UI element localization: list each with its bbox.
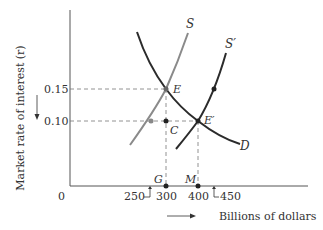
x-axis-label: Billions of dollars [219,210,317,223]
point-e-prime [196,119,201,124]
origin-label: 0 [58,190,65,203]
down-arrow-head-icon [35,114,40,120]
x-tick-250: 250 [124,190,145,203]
right-arrow-head-icon [190,214,196,219]
point-c [164,119,169,124]
label-d: D [239,139,250,153]
point-s-at-010 [149,119,154,124]
label-e-prime: E′ [203,114,215,127]
supply-demand-diagram: S S′ D E E′ C G M 0.15 0.10 Market rate … [0,0,323,230]
x-tick-300: 300 [156,190,177,203]
label-s: S [186,17,194,31]
label-g: G [154,173,163,186]
x-tick-400: 400 [188,190,209,203]
point-g [164,184,169,189]
x-tick-450: 450 [220,190,241,203]
label-c: C [170,124,179,137]
tick-bracket-450 [214,188,219,197]
point-e [164,87,169,92]
label-m: M [184,173,197,186]
y-tick-010: 0.10 [44,115,69,128]
y-axis-label: Market rate of interest (r) [14,45,27,190]
point-s-prime-at-015 [212,87,217,92]
y-tick-015: 0.15 [44,83,69,96]
label-e: E [172,83,181,96]
label-s-prime: S′ [225,37,236,51]
